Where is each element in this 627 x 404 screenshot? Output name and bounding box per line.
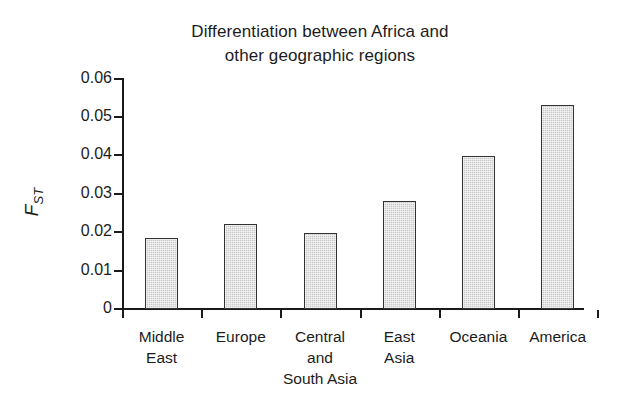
x-axis-tick [360, 310, 362, 318]
y-axis-tick [114, 154, 122, 156]
y-axis-tick-label: 0.02 [4, 223, 112, 239]
x-axis-category-label: Europe [201, 326, 280, 347]
x-axis-tick [439, 310, 441, 318]
bar [462, 156, 495, 309]
x-axis-category-label-line: America [518, 326, 597, 347]
y-axis-tick-label: 0.06 [4, 70, 112, 86]
x-axis-tick [201, 310, 203, 318]
x-axis-category-label: Oceania [439, 326, 518, 347]
x-axis-category-label: America [518, 326, 597, 347]
y-axis-tick [114, 270, 122, 272]
x-axis-category-label-line: South Asia [280, 368, 359, 389]
x-axis-line [122, 308, 584, 310]
x-axis-tick [280, 310, 282, 318]
x-axis-tick [597, 310, 599, 318]
x-axis-category-label: CentralandSouth Asia [280, 326, 359, 389]
y-axis-tick [114, 116, 122, 118]
chart-figure: Differentiation between Africa and other… [0, 0, 627, 404]
x-axis-category-label-line: and [280, 347, 359, 368]
x-axis-category-label-line: Central [280, 326, 359, 347]
y-axis-tick [114, 78, 122, 80]
x-axis-tick [122, 310, 124, 318]
bar [383, 201, 416, 309]
y-axis-tick [114, 193, 122, 195]
plot-area: 00.010.020.030.040.050.06 MiddleEastEuro… [0, 0, 627, 404]
y-axis-tick-label: 0 [4, 300, 112, 316]
y-axis-tick-label: 0.01 [4, 262, 112, 278]
y-axis-tick-label: 0.04 [4, 146, 112, 162]
bar [145, 238, 178, 309]
bar [304, 233, 337, 309]
y-axis-tick-label: 0.05 [4, 108, 112, 124]
bar [224, 224, 257, 309]
x-axis-category-label-line: Asia [360, 347, 439, 368]
y-axis-line [122, 78, 124, 310]
x-axis-tick [518, 310, 520, 318]
y-axis-tick [114, 231, 122, 233]
x-axis-category-label: MiddleEast [122, 326, 201, 368]
y-axis-tick-label: 0.03 [4, 185, 112, 201]
x-axis-category-label-line: East [360, 326, 439, 347]
bar [541, 105, 574, 309]
y-axis-tick [114, 308, 122, 310]
x-axis-category-label-line: Oceania [439, 326, 518, 347]
x-axis-category-label-line: Europe [201, 326, 280, 347]
x-axis-category-label-line: Middle [122, 326, 201, 347]
x-axis-category-label-line: East [122, 347, 201, 368]
x-axis-category-label: EastAsia [360, 326, 439, 368]
